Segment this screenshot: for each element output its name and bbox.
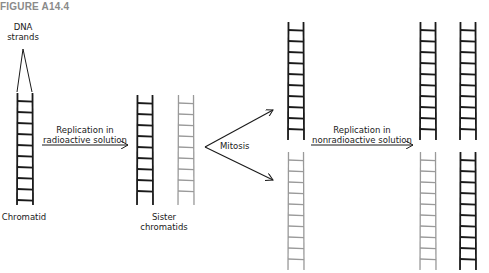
base-pair-rung [460,63,476,64]
chromatid-ladder-final-bottom-right [460,152,476,270]
base-pair-rung [288,215,304,216]
base-pair-rung [288,237,304,238]
sister-chromatids-label: Sister chromatids [138,212,190,232]
base-pair-rung [17,134,33,135]
base-pair-rung [288,129,304,130]
dna-strand-right [33,93,34,205]
base-pair-rung [288,96,304,97]
dna-strand-right [436,152,437,270]
base-pair-rung [288,107,304,108]
chromatid-label: Chromatid [0,212,48,222]
base-pair-rung [137,114,153,115]
base-pair-rung [420,85,436,86]
base-pair-rung [17,167,33,168]
base-pair-rung [460,259,476,260]
base-pair-rung [288,259,304,260]
base-pair-rung [460,182,476,183]
base-pair-rung [460,193,476,194]
sister-chromatids-line1: Sister [138,212,190,222]
sister-chromatids-line2: chromatids [138,222,190,232]
dna-strand-left [288,22,289,140]
base-pair-rung [460,129,476,130]
base-pair-rung [460,30,476,31]
base-pair-rung [420,160,436,161]
mitosis-arrow-down [205,147,273,180]
dna-strand-right [476,152,477,270]
base-pair-rung [288,160,304,161]
replication-radioactive-label: Replication in radioactive solution [40,125,130,145]
base-pair-rung [178,147,194,148]
dna-strand-left [137,95,138,205]
dna-strands-pointer [17,49,32,92]
base-pair-rung [420,52,436,53]
base-pair-rung [17,145,33,146]
base-pair-rung [137,191,153,192]
base-pair-rung [137,147,153,148]
replication-nonradioactive-line2: nonradioactive solution [310,135,414,145]
base-pair-rung [137,169,153,170]
base-pair-rung [178,169,194,170]
base-pair-rung [460,171,476,172]
dna-strand-right [436,22,437,140]
dna-strand-left [420,152,421,270]
base-pair-rung [420,193,436,194]
base-pair-rung [460,248,476,249]
dna-strands-label-line1: DNA [6,22,40,32]
base-pair-rung [288,63,304,64]
dna-strand-right [304,22,305,140]
dna-strand-right [476,22,477,140]
base-pair-rung [420,215,436,216]
base-pair-rung [137,180,153,181]
base-pair-rung [420,171,436,172]
dna-strand-left [178,95,179,205]
base-pair-rung [420,204,436,205]
base-pair-rung [420,107,436,108]
dna-strand-left [460,22,461,140]
base-pair-rung [178,114,194,115]
base-pair-rung [17,178,33,179]
base-pair-rung [420,30,436,31]
dna-strands-label: DNA strands [6,22,40,42]
base-pair-rung [420,96,436,97]
base-pair-rung [420,63,436,64]
replication-radioactive-line1: Replication in [40,125,130,135]
base-pair-rung [288,118,304,119]
base-pair-rung [178,103,194,104]
dna-strand-left [420,22,421,140]
dna-strand-left [460,152,461,270]
base-pair-rung [420,41,436,42]
base-pair-rung [420,259,436,260]
base-pair-rung [460,96,476,97]
base-pair-rung [460,41,476,42]
chromatid-ladder-daughter-bottom [288,152,304,270]
base-pair-rung [460,204,476,205]
base-pair-rung [178,180,194,181]
base-pair-rung [137,136,153,137]
base-pair-rung [137,125,153,126]
base-pair-rung [288,41,304,42]
dna-strand-right [304,152,305,270]
base-pair-rung [420,74,436,75]
chromatid-ladder-final-top-right [460,22,476,140]
base-pair-rung [460,226,476,227]
base-pair-rung [178,158,194,159]
base-pair-rung [420,248,436,249]
base-pair-rung [137,103,153,104]
base-pair-rung [288,171,304,172]
base-pair-rung [178,136,194,137]
base-pair-rung [420,118,436,119]
base-pair-rung [288,74,304,75]
base-pair-rung [288,30,304,31]
chromatid-ladder-sister-chromatid-gray [178,95,194,205]
base-pair-rung [178,125,194,126]
chromatid-ladder-final-bottom-left [420,152,436,270]
dna-strand-right [153,95,154,205]
base-pair-rung [178,191,194,192]
dna-strands-label-line2: strands [6,32,40,42]
chromatid-ladder-sister-chromatid-dark [137,95,153,205]
chromatid-ladder-daughter-top [288,22,304,140]
base-pair-rung [460,74,476,75]
dna-strand-left [288,152,289,270]
base-pair-rung [420,237,436,238]
base-pair-rung [17,156,33,157]
